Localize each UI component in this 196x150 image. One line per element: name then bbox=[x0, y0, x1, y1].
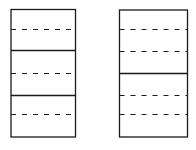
left-panel bbox=[11, 10, 76, 138]
panel-border bbox=[11, 10, 76, 138]
diagram-canvas bbox=[0, 0, 196, 150]
right-panel bbox=[120, 10, 188, 137]
